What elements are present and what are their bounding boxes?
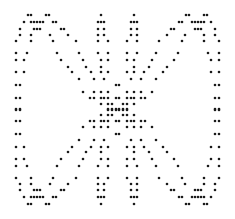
dot bbox=[214, 97, 217, 100]
dot bbox=[19, 120, 22, 123]
dot bbox=[97, 189, 100, 192]
dot bbox=[136, 34, 139, 37]
dot bbox=[173, 189, 176, 192]
dot bbox=[71, 146, 74, 149]
dot bbox=[162, 146, 165, 149]
dot bbox=[52, 196, 55, 199]
dot bbox=[107, 109, 110, 112]
dot bbox=[194, 196, 197, 199]
dot bbox=[197, 21, 200, 24]
dot bbox=[203, 14, 206, 17]
dot bbox=[19, 84, 22, 87]
dot bbox=[82, 91, 85, 94]
dot bbox=[39, 28, 42, 31]
dot bbox=[177, 165, 180, 168]
dot bbox=[60, 158, 63, 161]
dot bbox=[19, 133, 22, 136]
dot bbox=[100, 158, 103, 161]
dot bbox=[188, 203, 191, 206]
dot bbox=[178, 21, 181, 24]
dot bbox=[218, 120, 221, 123]
dot bbox=[49, 34, 52, 37]
dot bbox=[97, 34, 100, 37]
dot bbox=[218, 84, 221, 87]
dot bbox=[107, 52, 110, 55]
dot bbox=[203, 34, 206, 37]
dot bbox=[82, 59, 85, 62]
dot bbox=[155, 52, 158, 55]
dot bbox=[203, 183, 206, 186]
dot bbox=[218, 146, 221, 149]
dot bbox=[100, 203, 103, 206]
dot bbox=[103, 120, 106, 123]
dot bbox=[78, 165, 81, 168]
dot bbox=[100, 196, 103, 199]
dot bbox=[214, 28, 217, 31]
dot bbox=[133, 91, 136, 94]
dot bbox=[15, 109, 18, 112]
dot bbox=[75, 40, 78, 43]
dot bbox=[177, 52, 180, 55]
dot bbox=[103, 21, 106, 24]
dot bbox=[111, 103, 114, 106]
dot bbox=[181, 21, 184, 24]
dot bbox=[33, 196, 36, 199]
dot bbox=[126, 91, 129, 94]
dot bbox=[214, 109, 217, 112]
dot bbox=[15, 158, 18, 161]
dot bbox=[166, 66, 169, 69]
dot bbox=[39, 189, 42, 192]
dot bbox=[100, 71, 103, 74]
dot bbox=[148, 66, 151, 69]
dot bbox=[126, 126, 129, 129]
dot bbox=[30, 203, 33, 206]
dot bbox=[136, 21, 139, 24]
dot bbox=[136, 177, 139, 180]
dot bbox=[89, 97, 92, 100]
dot bbox=[203, 177, 206, 180]
dot bbox=[107, 146, 110, 149]
dot bbox=[133, 114, 136, 117]
dot bbox=[23, 59, 26, 62]
dot bbox=[118, 97, 121, 100]
dot bbox=[130, 97, 133, 100]
dot bbox=[107, 40, 110, 43]
dot bbox=[93, 78, 96, 81]
dot bbox=[203, 203, 206, 206]
dot bbox=[126, 109, 129, 112]
dot bbox=[97, 196, 100, 199]
dot bbox=[36, 28, 39, 31]
dot bbox=[130, 189, 133, 192]
dot bbox=[126, 114, 129, 117]
dot bbox=[133, 59, 136, 62]
dot bbox=[45, 14, 48, 17]
dot bbox=[42, 196, 45, 199]
dot bbox=[155, 165, 158, 168]
dot-pattern-canvas bbox=[0, 0, 235, 219]
dot bbox=[42, 21, 45, 24]
dot bbox=[122, 103, 125, 106]
dot bbox=[15, 84, 18, 87]
dot bbox=[214, 120, 217, 123]
dot bbox=[143, 146, 146, 149]
dot bbox=[144, 120, 147, 123]
dot bbox=[78, 52, 81, 55]
dot bbox=[218, 52, 221, 55]
dot bbox=[60, 28, 63, 31]
dot bbox=[33, 21, 36, 24]
dot bbox=[173, 28, 176, 31]
dot bbox=[97, 183, 100, 186]
dot bbox=[166, 34, 169, 37]
dot bbox=[197, 189, 200, 192]
dot bbox=[206, 203, 209, 206]
dot bbox=[133, 71, 136, 74]
dot bbox=[133, 120, 136, 123]
dot bbox=[39, 196, 42, 199]
dot bbox=[67, 183, 70, 186]
dot bbox=[206, 14, 209, 17]
dot bbox=[200, 189, 203, 192]
dot bbox=[200, 196, 203, 199]
dot bbox=[30, 177, 33, 180]
dot bbox=[136, 28, 139, 31]
dot bbox=[100, 97, 103, 100]
